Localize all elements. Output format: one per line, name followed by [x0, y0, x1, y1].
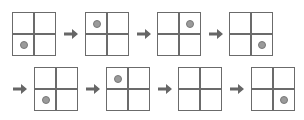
- grid-step-6: [106, 67, 150, 111]
- grid-divider-horizontal: [252, 88, 294, 90]
- grid-step-3: [157, 12, 201, 56]
- grid-divider-horizontal: [230, 33, 272, 35]
- dot-top-left: [114, 75, 122, 83]
- right-arrow-icon: [157, 82, 173, 96]
- grid-divider-horizontal: [179, 88, 221, 90]
- grid-step-2: [85, 12, 129, 56]
- grid-step-1: [12, 12, 56, 56]
- dot-top-right: [186, 20, 194, 28]
- grid-divider-horizontal: [13, 33, 55, 35]
- grid-step-7: [178, 67, 222, 111]
- grid-divider-horizontal: [86, 33, 128, 35]
- right-arrow-icon: [12, 82, 28, 96]
- grid-step-4: [229, 12, 273, 56]
- right-arrow-icon: [63, 27, 79, 41]
- grid-divider-horizontal: [35, 88, 77, 90]
- right-arrow-icon: [136, 27, 152, 41]
- dot-bottom-right: [258, 41, 266, 49]
- grid-divider-horizontal: [158, 33, 200, 35]
- grid-step-5: [34, 67, 78, 111]
- dot-top-left: [93, 20, 101, 28]
- grid-divider-horizontal: [107, 88, 149, 90]
- dot-bottom-left: [20, 41, 28, 49]
- dot-bottom-right: [280, 96, 288, 104]
- right-arrow-icon: [85, 82, 101, 96]
- right-arrow-icon: [229, 82, 245, 96]
- grid-step-8: [251, 67, 295, 111]
- dot-bottom-left: [42, 96, 50, 104]
- right-arrow-icon: [208, 27, 224, 41]
